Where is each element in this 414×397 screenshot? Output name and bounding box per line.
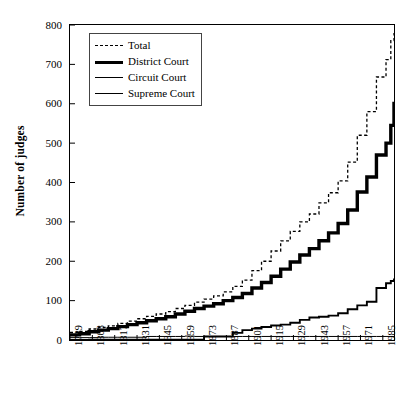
x-axis-tick-label: 1971 xyxy=(364,325,375,346)
x-axis-tick-label: 1817 xyxy=(119,325,130,346)
x-axis-tick-label: 1873 xyxy=(208,325,219,346)
x-axis-tick-label: 1859 xyxy=(186,325,197,346)
x-axis-tick-labels: 1789180318171831184518591873188719011915… xyxy=(0,0,414,397)
x-axis-tick-label: 1831 xyxy=(141,325,152,346)
x-axis-tick-label: 1943 xyxy=(320,325,331,346)
x-axis-tick-label: 1789 xyxy=(74,325,85,346)
x-axis-tick-label: 1887 xyxy=(230,325,241,346)
x-axis-tick-label: 1901 xyxy=(253,325,264,346)
x-axis-tick-label: 1915 xyxy=(275,325,286,346)
x-axis-tick-label: 1957 xyxy=(342,325,353,346)
x-axis-tick-label: 1803 xyxy=(96,325,107,346)
chart-figure: Number of judges 01002003004005006007008… xyxy=(0,0,414,397)
x-axis-tick-label: 1985 xyxy=(387,325,398,346)
x-axis-tick-label: 1929 xyxy=(297,325,308,346)
x-axis-tick-label: 1845 xyxy=(163,325,174,346)
